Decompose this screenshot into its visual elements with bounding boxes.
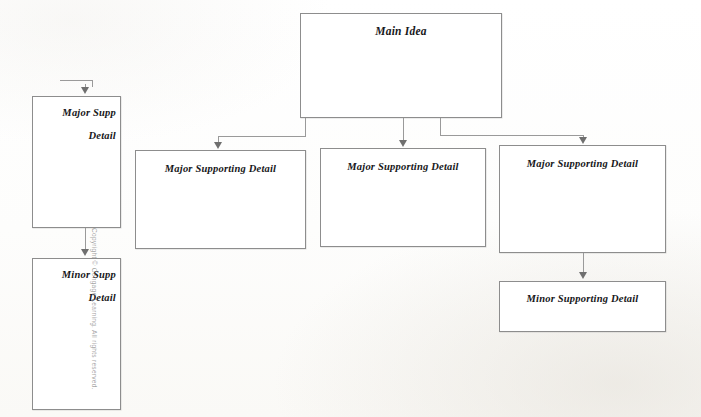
node-major-supporting-detail-1-label: Major Supporting Detail: [136, 163, 305, 174]
node-minor-supporting-detail-left-cutoff[interactable]: Minor Supp Detail: [32, 258, 121, 410]
connector-left-major-horizontal: [60, 80, 93, 81]
node-major-left-line1: Major Supp: [33, 106, 120, 120]
connector-main-to-major3-stub: [440, 118, 441, 135]
arrowhead-minor-right: [579, 272, 587, 279]
node-minor-left-line2: Detail: [33, 291, 120, 305]
node-major-supporting-detail-2[interactable]: Major Supporting Detail: [320, 148, 486, 247]
node-major-supporting-detail-3[interactable]: Major Supporting Detail: [499, 145, 666, 253]
connector-left-major-drop: [92, 80, 93, 87]
node-main-idea[interactable]: Main Idea: [300, 13, 502, 118]
node-major-supporting-detail-2-label: Major Supporting Detail: [321, 161, 485, 172]
arrowhead-major1: [214, 142, 222, 149]
node-major-supporting-detail-1[interactable]: Major Supporting Detail: [135, 150, 306, 249]
node-minor-supporting-detail-right-label: Minor Supporting Detail: [500, 293, 665, 304]
node-major-supporting-detail-3-label: Major Supporting Detail: [500, 158, 665, 169]
node-minor-left-line1: Minor Supp: [33, 268, 120, 282]
arrowhead-major2: [399, 140, 407, 147]
node-main-idea-label: Main Idea: [301, 25, 501, 37]
arrowhead-left-major: [81, 87, 89, 94]
diagram-page: Main Idea Major Supporting Detail Major …: [0, 0, 701, 417]
connector-main-to-major2: [403, 118, 404, 142]
connector-major3-to-minor: [583, 253, 584, 274]
connector-main-to-major1-horizontal: [218, 136, 306, 137]
node-minor-supporting-detail-right[interactable]: Minor Supporting Detail: [499, 281, 666, 332]
node-major-supporting-detail-left-cutoff[interactable]: Major Supp Detail: [32, 96, 121, 228]
connector-main-to-major1-stub: [305, 118, 306, 136]
connector-left-major-to-left-minor: [85, 228, 86, 251]
node-major-left-line2: Detail: [33, 129, 120, 143]
arrowhead-major3: [579, 137, 587, 144]
connector-main-to-major3-horizontal: [440, 135, 584, 136]
arrowhead-left-minor: [81, 249, 89, 256]
